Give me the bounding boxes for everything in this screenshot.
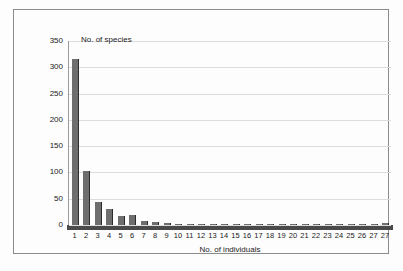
y-axis-tick: 0 — [59, 221, 63, 229]
bar — [336, 224, 343, 226]
bar — [141, 221, 148, 225]
bar — [129, 215, 136, 225]
bar-slot — [174, 41, 186, 225]
bar — [152, 222, 159, 225]
bar-slot — [278, 41, 290, 225]
bar — [106, 209, 113, 225]
bar-slot — [94, 41, 106, 225]
bar — [359, 224, 366, 226]
bar-slot — [232, 41, 244, 225]
bar-slot — [117, 41, 129, 225]
bar — [382, 223, 389, 225]
gridline — [69, 225, 391, 226]
bar — [302, 224, 309, 226]
bar — [267, 224, 274, 226]
y-axis-tick: 200 — [50, 116, 63, 124]
bar — [221, 224, 228, 226]
bar — [210, 224, 217, 226]
bar — [72, 59, 79, 225]
bar — [348, 224, 355, 226]
bar-slot — [312, 41, 324, 225]
bar — [313, 224, 320, 226]
bar-slot — [71, 41, 83, 225]
y-axis-tick: 150 — [50, 142, 63, 150]
bar — [187, 224, 194, 226]
bar-slot — [82, 41, 94, 225]
bar — [175, 224, 182, 226]
x-axis-title: No. of individuals — [69, 246, 391, 254]
figure-border: 050100150200250300350 No. of species 123… — [13, 9, 389, 254]
bar-slot — [105, 41, 117, 225]
bar-slot — [197, 41, 209, 225]
x-axis-tick: 27 — [378, 232, 392, 240]
bar-slot — [163, 41, 175, 225]
bar — [290, 224, 297, 226]
bar — [83, 171, 90, 225]
bar — [325, 224, 332, 226]
y-axis-tick: 50 — [54, 195, 63, 203]
bar-slot — [209, 41, 221, 225]
bar-slot — [370, 41, 382, 225]
bar-slot — [255, 41, 267, 225]
y-axis-tick: 100 — [50, 168, 63, 176]
bar-slot — [324, 41, 336, 225]
bar-slot — [266, 41, 278, 225]
bar — [279, 224, 286, 226]
bar — [164, 223, 171, 225]
bar — [256, 224, 263, 226]
bar — [244, 224, 251, 226]
plot-area: 050100150200250300350 No. of species 123… — [69, 41, 391, 225]
bar-slot — [381, 41, 393, 225]
histogram-figure: 050100150200250300350 No. of species 123… — [0, 0, 403, 271]
bar-slot — [358, 41, 370, 225]
bar-series — [69, 41, 391, 225]
bar-slot — [335, 41, 347, 225]
bar-slot — [151, 41, 163, 225]
bar — [198, 224, 205, 226]
bar-slot — [289, 41, 301, 225]
y-axis-tick: 300 — [50, 63, 63, 71]
bar — [118, 216, 125, 225]
y-axis-tick: 250 — [50, 90, 63, 98]
bar-slot — [140, 41, 152, 225]
bar-slot — [243, 41, 255, 225]
bar-slot — [347, 41, 359, 225]
y-axis-tick: 350 — [50, 37, 63, 45]
bar-slot — [186, 41, 198, 225]
bar-slot — [301, 41, 313, 225]
bar-slot — [128, 41, 140, 225]
bar-slot — [220, 41, 232, 225]
bar — [95, 202, 102, 225]
bar — [233, 224, 240, 226]
bar — [371, 224, 378, 226]
